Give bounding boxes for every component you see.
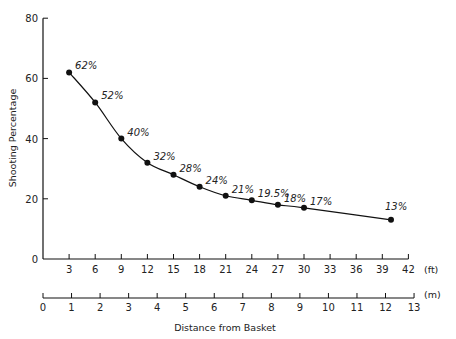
x-axis-feet: 3691215182124273033363942 <box>43 254 415 275</box>
data-point <box>118 136 124 142</box>
x-tick-label-m: 1 <box>68 302 74 313</box>
y-tick-label: 20 <box>25 194 38 205</box>
x-tick-label-m: 0 <box>40 302 46 313</box>
y-tick-label: 60 <box>25 73 38 84</box>
x-unit-feet: (ft) <box>424 264 438 275</box>
data-point-label: 28% <box>180 163 202 174</box>
x-tick-label-ft: 24 <box>245 264 258 275</box>
x-tick-label-m: 13 <box>408 302 421 313</box>
x-tick-label-ft: 9 <box>118 264 124 275</box>
data-point <box>388 217 394 223</box>
data-point <box>275 202 281 208</box>
x-tick-label-m: 7 <box>240 302 246 313</box>
x-tick-label-ft: 42 <box>402 264 415 275</box>
data-point-label: 40% <box>127 127 149 138</box>
x-tick-label-ft: 30 <box>298 264 311 275</box>
data-point <box>249 197 255 203</box>
shooting-percentage-chart: 020406080 3691215182124273033363942 0123… <box>0 0 456 339</box>
y-tick-label: 80 <box>25 13 38 24</box>
data-point <box>171 172 177 178</box>
y-tick-label: 40 <box>25 134 38 145</box>
x-tick-label-m: 6 <box>211 302 217 313</box>
data-point-label: 17% <box>310 196 332 207</box>
x-tick-label-m: 10 <box>322 302 335 313</box>
x-axis-meters: 012345678910111213 <box>40 293 421 313</box>
data-point-label: 32% <box>153 151 175 162</box>
x-tick-label-ft: 15 <box>167 264 180 275</box>
data-point <box>197 184 203 190</box>
data-point-label: 62% <box>75 60 97 71</box>
data-point <box>223 193 229 199</box>
x-tick-label-m: 4 <box>154 302 160 313</box>
x-tick-label-ft: 33 <box>324 264 337 275</box>
data-point-label: 13% <box>385 201 407 212</box>
x-tick-label-m: 2 <box>97 302 103 313</box>
y-axis-title: Shooting Percentage <box>7 89 18 188</box>
x-tick-label-ft: 27 <box>272 264 285 275</box>
y-axis: 020406080 <box>25 13 48 265</box>
x-tick-label-ft: 3 <box>66 264 72 275</box>
x-tick-label-m: 8 <box>268 302 274 313</box>
x-tick-label-ft: 39 <box>376 264 389 275</box>
data-point-label: 24% <box>206 175 228 186</box>
x-tick-label-ft: 21 <box>219 264 232 275</box>
x-tick-label-m: 3 <box>125 302 131 313</box>
data-point-label: 21% <box>232 184 254 195</box>
data-point <box>301 205 307 211</box>
data-point <box>92 99 98 105</box>
x-tick-label-m: 11 <box>351 302 364 313</box>
data-point <box>144 160 150 166</box>
data-point-label: 18% <box>284 193 306 204</box>
x-axis-title: Distance from Basket <box>174 322 276 333</box>
x-tick-label-ft: 12 <box>141 264 154 275</box>
x-unit-meters: (m) <box>424 289 441 300</box>
y-tick-label: 0 <box>32 254 38 265</box>
data-point-label: 52% <box>101 90 123 101</box>
data-point <box>66 69 72 75</box>
x-tick-label-ft: 36 <box>350 264 363 275</box>
x-tick-label-ft: 6 <box>92 264 98 275</box>
x-tick-label-ft: 18 <box>193 264 206 275</box>
x-tick-label-m: 12 <box>379 302 392 313</box>
x-tick-label-m: 9 <box>297 302 303 313</box>
x-tick-label-m: 5 <box>183 302 189 313</box>
